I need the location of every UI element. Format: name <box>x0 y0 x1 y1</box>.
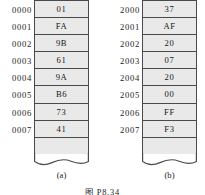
address-column-a: 0000 0001 0002 0003 0004 0005 0006 0007 <box>0 0 32 139</box>
address-label: 2000 <box>108 2 140 19</box>
memory-cell: 9A <box>35 69 88 86</box>
memory-cell: B6 <box>35 86 88 103</box>
address-label: 2007 <box>108 122 140 139</box>
memory-map-figure: 0000 0001 0002 0003 0004 0005 0006 0007 … <box>0 0 205 195</box>
memory-cell: 00 <box>143 86 196 103</box>
address-label: 0003 <box>0 53 32 70</box>
memory-cell-column-a: 01 FA 9B 61 9A B6 73 41 <box>34 0 89 154</box>
address-label: 2002 <box>108 36 140 53</box>
address-label: 2006 <box>108 105 140 122</box>
address-label: 2004 <box>108 70 140 87</box>
memory-cell-empty <box>143 138 196 154</box>
memory-cell-empty <box>35 138 88 154</box>
address-column-b: 2000 2001 2002 2003 2004 2005 2006 2007 <box>108 0 140 139</box>
memory-cell: 73 <box>35 104 88 121</box>
address-label: 0006 <box>0 105 32 122</box>
address-label: 0001 <box>0 19 32 36</box>
memory-cell: F3 <box>143 121 196 138</box>
torn-edge-icon <box>142 153 197 166</box>
address-label: 2001 <box>108 19 140 36</box>
memory-cell: 61 <box>35 52 88 69</box>
torn-edge-icon <box>34 153 89 166</box>
memory-cell: FA <box>35 18 88 35</box>
memory-cells-wrapper-a: 01 FA 9B 61 9A B6 73 41 <box>34 0 89 166</box>
subfigure-label-a: (a) <box>34 170 89 180</box>
memory-cell-column-b: 37 AF 20 07 20 00 FF F3 <box>142 0 197 154</box>
address-label: 2005 <box>108 87 140 104</box>
memory-cell: AF <box>143 18 196 35</box>
memory-block-a: 0000 0001 0002 0003 0004 0005 0006 0007 … <box>0 0 89 166</box>
address-label: 0002 <box>0 36 32 53</box>
address-label: 0000 <box>0 2 32 19</box>
memory-cell: 20 <box>143 35 196 52</box>
address-label: 2003 <box>108 53 140 70</box>
memory-block-b: 2000 2001 2002 2003 2004 2005 2006 2007 … <box>108 0 197 166</box>
figure-caption: 图 P8.34 <box>0 185 205 195</box>
memory-cell: 01 <box>35 1 88 18</box>
memory-cell: 41 <box>35 121 88 138</box>
address-label: 0007 <box>0 122 32 139</box>
address-label: 0005 <box>0 87 32 104</box>
subfigure-label-b: (b) <box>142 170 197 180</box>
memory-cell: 07 <box>143 52 196 69</box>
memory-cell: 9B <box>35 35 88 52</box>
address-label: 0004 <box>0 70 32 87</box>
memory-cell: 37 <box>143 1 196 18</box>
memory-cell: 20 <box>143 69 196 86</box>
memory-cells-wrapper-b: 37 AF 20 07 20 00 FF F3 <box>142 0 197 166</box>
memory-cell: FF <box>143 104 196 121</box>
